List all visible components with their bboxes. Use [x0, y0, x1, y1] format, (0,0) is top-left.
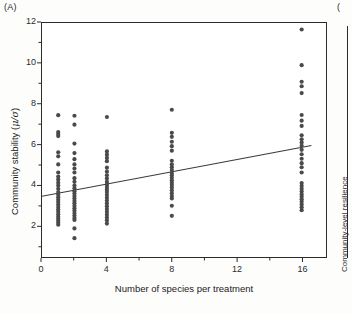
x-tick-label: 0 — [31, 265, 51, 274]
y-tick-label: 10 — [12, 58, 36, 67]
x-tick-label: 8 — [162, 265, 182, 274]
y-tick-label: 12 — [12, 17, 36, 26]
x-tick-label: 16 — [292, 265, 312, 274]
x-axis-title: Number of species per treatment — [41, 283, 327, 294]
x-axis-ticks — [41, 258, 302, 262]
panel-b-y-axis-title: Community-level resilience — [340, 112, 349, 272]
figure-panel-a: (A) Community stability (μ/σ) 24681012 0… — [0, 0, 352, 314]
y-tick-label: 2 — [12, 221, 36, 230]
y-tick-label: 8 — [12, 99, 36, 108]
y-axis-ticks — [37, 22, 41, 247]
panel-b-fragment: ( Community-level resilience — [336, 0, 352, 314]
x-tick-label: 4 — [96, 265, 116, 274]
x-tick-label: 12 — [227, 265, 247, 274]
panel-b-label: ( — [337, 2, 340, 12]
y-tick-label: 4 — [12, 180, 36, 189]
y-tick-label: 6 — [12, 140, 36, 149]
